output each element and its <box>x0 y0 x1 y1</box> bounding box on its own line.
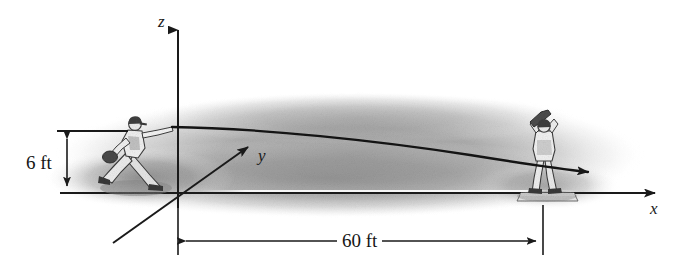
release-height-label: 6 ft <box>26 153 52 172</box>
z-axis-label: z <box>158 13 165 30</box>
x-axis-label: x <box>650 200 658 217</box>
baseball-trajectory-figure: z y x 6 ft 60 ft <box>0 0 684 272</box>
y-axis-label: y <box>258 147 266 164</box>
pitching-distance-label: 60 ft <box>337 231 382 250</box>
